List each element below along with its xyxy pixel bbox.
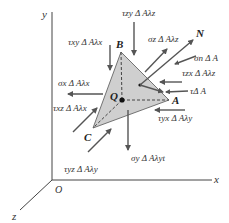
tau-yz-label: τyz Δ Aλy: [64, 164, 98, 174]
tau-xz-label: τxz Δ Aλx: [53, 103, 87, 113]
origin-label: O: [55, 184, 62, 195]
y-axis-label: y: [41, 8, 47, 20]
point-q: [119, 97, 124, 102]
normal-n-arrow: [140, 40, 193, 85]
z-axis-label: z: [11, 210, 17, 222]
stress-tetrahedron-diagram: y x z O B A C Q N: [0, 0, 229, 223]
tau-xy-label: τxy Δ Aλx: [68, 37, 102, 47]
sigma-x-label: σx Δ Aλx: [58, 78, 89, 88]
vertex-a-label: A: [171, 94, 179, 106]
vertex-c-label: C: [84, 131, 92, 143]
sigma-z-arrow: [145, 49, 167, 72]
tau-label: τΔ A: [190, 86, 207, 96]
tau-yx-label: τyx Δ Aλy: [158, 113, 192, 123]
tau-pointer: [166, 91, 188, 92]
sigma-y-label: σy Δ Aλyt: [131, 153, 165, 163]
sigma-z-label: σz Δ Aλz: [148, 34, 179, 44]
normal-n-label: N: [195, 27, 205, 39]
z-axis: [20, 180, 52, 210]
tau-yz-arrow: [88, 129, 111, 152]
tau-zx-label: τzx Δ Aλz: [182, 68, 216, 78]
point-q-label: Q: [110, 90, 118, 102]
tau-zy-label: τzy Δ Aλz: [122, 8, 156, 18]
sigma-n-label: σn Δ A: [194, 53, 219, 63]
vertex-b-label: B: [115, 38, 123, 50]
sigma-n-pointer: [175, 56, 196, 64]
x-axis-label: x: [213, 173, 219, 185]
